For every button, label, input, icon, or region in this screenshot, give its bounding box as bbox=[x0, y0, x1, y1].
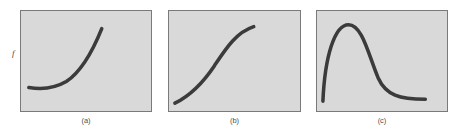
y-axis-label: f bbox=[12, 49, 15, 58]
panel-c bbox=[316, 10, 448, 112]
panel-c-plot bbox=[317, 11, 447, 111]
panel-b-caption: (b) bbox=[168, 117, 301, 125]
curve-sigmoid bbox=[175, 27, 254, 103]
panel-a-plot bbox=[21, 11, 151, 111]
figure-root: f (a) (b) (c) bbox=[0, 0, 455, 132]
panel-c-caption: (c) bbox=[316, 117, 448, 125]
panel-a bbox=[20, 10, 152, 112]
panel-b bbox=[168, 10, 301, 112]
panel-b-plot bbox=[169, 11, 300, 111]
curve-increasing-convex bbox=[29, 29, 102, 89]
curve-right-skewed-peak bbox=[323, 25, 425, 101]
panel-a-caption: (a) bbox=[20, 117, 152, 125]
